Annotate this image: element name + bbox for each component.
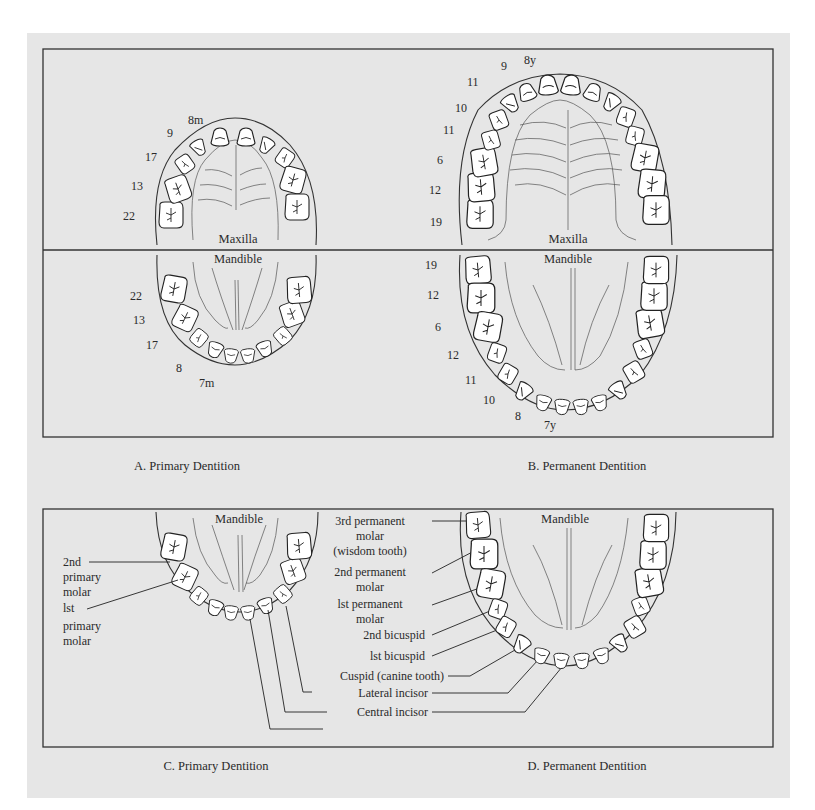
panel-a-mandible: Mandible [157,252,316,365]
panel-b-maxilla-label: Maxilla [549,232,588,246]
eruption-label: 8 [176,361,182,375]
eruption-label: 12 [429,183,441,197]
eruption-label: 6 [437,153,443,167]
first-primary-molar-label: lst [63,601,75,615]
eruption-label: 13 [133,313,145,327]
eruption-label: 6 [435,320,441,334]
caption-d: D. Permanent Dentition [527,759,647,773]
second-primary-molar-label: molar [63,585,91,599]
eruption-label: 8 [515,409,521,423]
central-incisor-label: Central incisor [357,705,428,719]
eruption-label: 9 [501,59,507,73]
second-primary-molar-label: 2nd [63,555,81,569]
eruption-label: 19 [430,215,442,229]
second-bicuspid-label: 2nd bicuspid [363,628,425,642]
third-molar-label: 3rd permanent [335,514,405,528]
panel-b-maxilla: Maxilla [459,74,672,246]
third-molar-label: molar [356,529,384,543]
caption-a: A. Primary Dentition [134,459,241,473]
eruption-label: 12 [427,288,439,302]
panel-a-mandible-label: Mandible [214,252,262,266]
top-frame [43,49,773,437]
eruption-label: 11 [465,373,477,387]
eruption-label: 8m [188,113,204,127]
eruption-label: 11 [467,75,479,89]
eruption-label: 13 [131,179,143,193]
second-molar-label: molar [356,580,384,594]
panel-a-maxilla-label: Maxilla [219,232,258,246]
eruption-label: 22 [130,289,142,303]
panel-a-maxilla: Maxilla [155,118,316,246]
eruption-label: 8y [524,53,536,67]
caption-c: C. Primary Dentition [163,759,269,773]
second-molar-label: 2nd permanent [334,565,406,579]
dentition-figure: Maxilla 8m 9 17 13 22 Mandible 22 13 17 … [0,0,815,810]
eruption-label: 22 [123,209,135,223]
panel-c-mandible: Mandible [156,512,318,621]
lateral-incisor-label: Lateral incisor [358,686,428,700]
eruption-label: 17 [146,338,158,352]
eruption-label: 10 [483,393,495,407]
eruption-label: 9 [167,126,173,140]
panel-c-mandible-label: Mandible [215,512,263,526]
eruption-label: 19 [425,258,437,272]
first-primary-molar-label: molar [63,634,91,648]
third-molar-label: (wisdom tooth) [333,544,407,558]
panel-b-mandible-label: Mandible [544,252,592,266]
caption-b: B. Permanent Dentition [528,459,647,473]
eruption-label: 7m [199,376,215,390]
eruption-label: 11 [443,123,455,137]
cuspid-label: Cuspid (canine tooth) [340,669,444,683]
eruption-label: 17 [145,150,157,164]
eruption-label: 10 [455,101,467,115]
eruption-label: 12 [447,348,459,362]
second-primary-molar-label: primary [63,570,101,584]
panel-d-mandible: Mandible [460,511,676,669]
first-molar-label: lst permanent [338,597,404,611]
panel-b-mandible: Mandible [459,252,677,415]
eruption-label: 7y [544,418,556,432]
first-molar-label: molar [356,612,384,626]
panel-d-labels: 3rd permanent molar (wisdom tooth) 2nd p… [333,514,562,719]
panel-d-mandible-label: Mandible [541,512,589,526]
first-primary-molar-label: primary [63,619,101,633]
first-bicuspid-label: lst bicuspid [370,649,425,663]
